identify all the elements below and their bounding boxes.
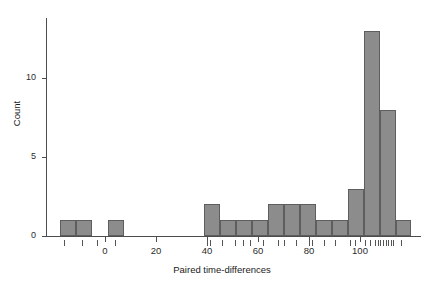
- histogram-bar: [380, 110, 396, 236]
- rug-tick: [401, 240, 402, 246]
- histogram-bar: [316, 220, 332, 236]
- rug-tick: [284, 240, 285, 246]
- rug-tick: [365, 240, 366, 246]
- histogram-bar: [252, 220, 268, 236]
- rug-tick: [309, 240, 310, 246]
- rug-tick: [207, 240, 208, 246]
- rug-tick: [350, 240, 351, 246]
- x-axis-line: [46, 236, 421, 237]
- histogram-bar: [268, 204, 284, 236]
- y-tick-mark: [42, 236, 46, 237]
- rug-tick: [263, 240, 264, 246]
- rug-tick: [393, 240, 394, 246]
- x-tick-label: 20: [136, 246, 176, 256]
- rug-tick: [235, 240, 236, 246]
- x-tick-label: 80: [289, 246, 329, 256]
- y-tick-label: 5: [0, 152, 36, 161]
- x-tick-mark: [105, 237, 106, 242]
- rug-tick: [64, 240, 65, 246]
- y-tick-mark: [42, 157, 46, 158]
- y-tick-mark: [42, 78, 46, 79]
- y-tick-label: 0: [0, 231, 36, 240]
- histogram-bar: [300, 204, 316, 236]
- x-tick-label: 60: [238, 246, 278, 256]
- histogram-bar: [364, 31, 380, 236]
- rug-tick: [250, 240, 251, 246]
- x-tick-label: 40: [187, 246, 227, 256]
- rug-tick: [388, 240, 389, 246]
- histogram-bar: [332, 220, 348, 236]
- histogram-bar: [60, 220, 76, 236]
- histogram-bar: [236, 220, 252, 236]
- rug-tick: [210, 240, 211, 246]
- histogram-bar: [108, 220, 124, 236]
- rug-tick: [386, 240, 387, 246]
- rug-tick: [243, 240, 244, 246]
- x-axis-title: Paired time-differences: [0, 264, 444, 275]
- rug-tick: [391, 240, 392, 246]
- rug-tick: [370, 240, 371, 246]
- x-tick-label: 100: [340, 246, 380, 256]
- rug-tick: [378, 240, 379, 246]
- y-axis-title: Count: [11, 74, 22, 154]
- rug-tick: [82, 240, 83, 246]
- histogram-bar: [76, 220, 92, 236]
- rug-tick: [222, 240, 223, 246]
- histogram-plot: Count Paired time-differences 0510 02040…: [0, 0, 444, 290]
- rug-tick: [355, 240, 356, 246]
- histogram-bar: [220, 220, 236, 236]
- y-tick-label: 10: [0, 73, 36, 82]
- histogram-bar: [348, 189, 364, 236]
- rug-tick: [278, 240, 279, 246]
- x-tick-mark: [156, 237, 157, 242]
- rug-tick: [115, 240, 116, 246]
- rug-tick: [383, 240, 384, 246]
- histogram-bar: [204, 204, 220, 236]
- rug-tick: [380, 240, 381, 246]
- x-tick-mark: [360, 237, 361, 242]
- rug-tick: [335, 240, 336, 246]
- x-tick-label: 0: [85, 246, 125, 256]
- y-axis-line: [46, 18, 47, 236]
- histogram-bar: [396, 220, 412, 236]
- rug-tick: [324, 240, 325, 246]
- rug-tick: [296, 240, 297, 246]
- rug-tick: [312, 240, 313, 246]
- rug-tick: [97, 240, 98, 246]
- x-tick-mark: [258, 237, 259, 242]
- histogram-bar: [284, 204, 300, 236]
- rug-tick: [375, 240, 376, 246]
